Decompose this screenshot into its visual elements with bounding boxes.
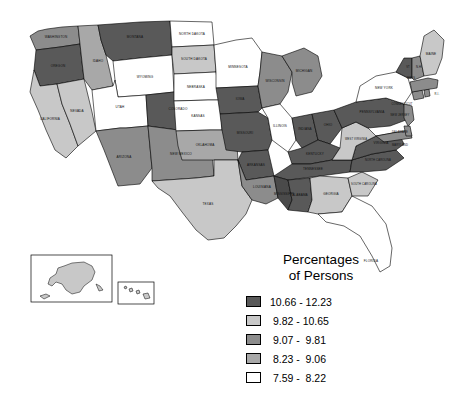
legend-swatch bbox=[246, 334, 261, 345]
legend-label: 8.23 - 9.06 bbox=[270, 353, 326, 365]
state-label: WYOMING bbox=[137, 75, 154, 79]
state-label: NEW YORK bbox=[375, 86, 394, 90]
state-label: GEORGIA bbox=[323, 192, 339, 196]
state-label: CALIFORNIA bbox=[40, 117, 61, 121]
state-label: DELAWARE bbox=[392, 130, 408, 134]
legend-row: 8.23 - 9.06 bbox=[246, 349, 396, 368]
state-label: WISCONSIN bbox=[265, 79, 284, 83]
legend-label: 10.66 - 12.23 bbox=[270, 296, 332, 308]
state-label: TENNESSEE bbox=[303, 167, 323, 171]
state-label: OREGON bbox=[51, 64, 66, 68]
state-label: SOUTH CAROLINA bbox=[351, 182, 377, 186]
state-label: ALABAMA bbox=[292, 193, 308, 197]
state-label: TEXAS bbox=[203, 202, 214, 206]
state-label: MINNESOTA bbox=[228, 65, 248, 69]
state-rhode-island bbox=[424, 89, 430, 97]
state-label: MONTANA bbox=[127, 35, 144, 39]
legend-label: 9.07 - 9.81 bbox=[270, 334, 326, 346]
state-label: UTAH bbox=[116, 105, 125, 109]
state-label: NEW JERSEY bbox=[391, 113, 410, 117]
hawaii-island-3 bbox=[136, 290, 140, 294]
state-montana bbox=[98, 21, 172, 61]
state-label: N.H. bbox=[416, 65, 422, 69]
state-label: MISSOURI bbox=[237, 131, 254, 135]
state-label: WASHINGTON bbox=[45, 35, 68, 39]
state-label: NEW MEXICO bbox=[170, 152, 192, 156]
state-label: MASS bbox=[407, 76, 415, 80]
legend-class-list: 10.66 - 12.23 9.82 - 10.65 9.07 - 9.81 8… bbox=[246, 292, 396, 387]
state-label: MAINE bbox=[426, 52, 437, 56]
state-label: VIRGINIA bbox=[374, 141, 390, 145]
state-label: NEVADA bbox=[70, 109, 84, 113]
legend-row: 9.07 - 9.81 bbox=[246, 330, 396, 349]
state-label: OKLAHOMA bbox=[196, 143, 216, 147]
state-label: IDAHO bbox=[93, 59, 104, 63]
legend-row: 10.66 - 12.23 bbox=[246, 292, 396, 311]
state-label: WEST VIRGINIA bbox=[345, 137, 367, 141]
state-label: OHIO bbox=[324, 123, 333, 127]
hawaii-inset-box bbox=[118, 282, 154, 304]
map-legend: Percentages of Persons 10.66 - 12.23 9.8… bbox=[246, 252, 396, 387]
legend-label: 9.82 - 10.65 bbox=[270, 315, 329, 327]
legend-swatch bbox=[246, 372, 261, 383]
choropleth-map-figure: WASHINGTONOREGONCALIFORNIANEVADAIDAHOMON… bbox=[0, 0, 458, 395]
state-label: LOUISIANA bbox=[253, 185, 272, 189]
legend-row: 7.59 - 8.22 bbox=[246, 368, 396, 387]
legend-swatch bbox=[246, 315, 261, 326]
legend-title-line1: Percentages bbox=[246, 252, 396, 268]
state-label: KENTUCKY bbox=[306, 152, 324, 156]
state-label: R.I. bbox=[435, 92, 440, 96]
state-label: ARKANSAS bbox=[247, 163, 265, 167]
legend-label: 7.59 - 8.22 bbox=[270, 372, 326, 384]
legend-title-line2: of Persons bbox=[246, 268, 396, 284]
state-label: CONNECTICUT bbox=[391, 102, 412, 106]
state-label: NORTH CAROLINA bbox=[365, 158, 391, 162]
legend-title: Percentages of Persons bbox=[246, 252, 396, 283]
state-label: MARYLAND bbox=[392, 143, 408, 147]
state-label: MICHIGAN bbox=[296, 69, 313, 73]
state-minnesota bbox=[214, 38, 262, 88]
state-label: VT bbox=[406, 65, 410, 69]
state-label: NEBRASKA bbox=[187, 85, 206, 89]
state-label: PENNSYLVANIA bbox=[359, 110, 385, 114]
state-label: INDIANA bbox=[298, 127, 312, 131]
legend-swatch bbox=[246, 296, 261, 307]
state-label: ARIZONA bbox=[117, 155, 133, 159]
legend-swatch bbox=[246, 353, 261, 364]
hawaii-island-2 bbox=[129, 288, 133, 292]
state-label: MISSISSIPPI bbox=[274, 192, 294, 196]
legend-row: 9.82 - 10.65 bbox=[246, 311, 396, 330]
state-label: KANSAS bbox=[191, 114, 204, 118]
state-label: NORTH DAKOTA bbox=[179, 32, 206, 36]
state-label: ILLINOIS bbox=[273, 124, 287, 128]
state-label: SOUTH DAKOTA bbox=[181, 57, 208, 61]
state-label: IOWA bbox=[236, 97, 246, 101]
state-label: COLORADO bbox=[169, 107, 188, 111]
